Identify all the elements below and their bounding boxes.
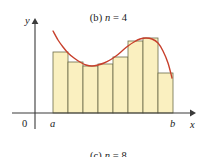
figure-container: (b) n = 4 y x 0 a b (c) n = 8: [0, 0, 206, 157]
x-axis-label: x: [189, 119, 195, 130]
riemann-rectangle: [158, 73, 173, 113]
caption-bottom-prefix: (c): [90, 150, 105, 157]
origin-label: 0: [22, 118, 27, 129]
caption-bottom: (c) n = 8: [0, 139, 206, 157]
y-axis-label: y: [24, 15, 30, 26]
riemann-sum-figure: y x 0 a b: [0, 0, 206, 157]
riemann-rectangle: [83, 66, 98, 113]
caption-bottom-equation: = 8: [110, 150, 127, 157]
right-bound-label-b: b: [170, 118, 175, 129]
left-bound-label-a: a: [50, 118, 55, 129]
riemann-rectangle: [53, 52, 68, 113]
riemann-rectangle: [98, 64, 113, 113]
y-axis-arrow-icon: [32, 18, 39, 24]
riemann-rectangle: [68, 62, 83, 113]
riemann-rectangle: [143, 38, 158, 113]
riemann-rectangles-group: [53, 38, 173, 113]
riemann-rectangle: [113, 57, 128, 113]
x-axis-arrow-icon: [190, 110, 196, 117]
riemann-rectangle: [128, 41, 143, 113]
